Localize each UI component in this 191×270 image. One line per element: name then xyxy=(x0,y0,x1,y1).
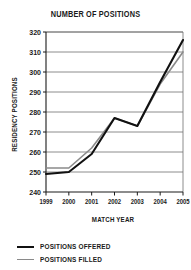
y-tick-label: 250 xyxy=(29,168,41,178)
x-tick-label: 1999 xyxy=(39,198,53,205)
legend-label: POSITIONS OFFERED xyxy=(40,242,110,251)
y-tick-label: 310 xyxy=(29,48,41,58)
gridlines xyxy=(46,32,183,172)
legend-label: POSITIONS FILLED xyxy=(40,255,102,264)
x-axis-ticks: 1999200020012002200320042005 xyxy=(39,192,190,205)
series-line xyxy=(46,40,183,174)
data-series-lines xyxy=(46,40,183,174)
y-tick-label: 270 xyxy=(29,128,41,138)
y-tick-label: 320 xyxy=(29,28,41,38)
legend-item-positions-offered: POSITIONS OFFERED xyxy=(8,240,191,253)
y-tick-label: 260 xyxy=(29,148,41,158)
x-tick-label: 2000 xyxy=(62,198,76,205)
x-tick-label: 2002 xyxy=(108,198,122,205)
x-axis-title: MATCH YEAR xyxy=(50,215,176,224)
y-axis-ticks: 240250260270280290300310320 xyxy=(29,28,46,198)
series-line xyxy=(46,52,183,168)
x-tick-label: 2003 xyxy=(131,198,145,205)
plot-area: 240250260270280290300310320 199920002001… xyxy=(0,0,191,270)
x-tick-label: 2004 xyxy=(154,198,168,205)
y-tick-label: 290 xyxy=(29,88,41,98)
black-line-swatch-icon xyxy=(17,246,34,248)
x-tick-label: 2001 xyxy=(85,198,99,205)
legend-item-positions-filled: POSITIONS FILLED xyxy=(8,253,191,266)
x-tick-label: 2005 xyxy=(176,198,190,205)
y-tick-label: 240 xyxy=(29,188,41,198)
y-tick-label: 300 xyxy=(29,68,41,78)
gray-line-swatch-icon xyxy=(17,259,34,260)
chart-legend: POSITIONS OFFERED POSITIONS FILLED xyxy=(8,240,191,266)
y-tick-label: 280 xyxy=(29,108,41,118)
chart-figure: NUMBER OF POSITIONS RESIDENCY POSITIONS … xyxy=(0,0,191,270)
